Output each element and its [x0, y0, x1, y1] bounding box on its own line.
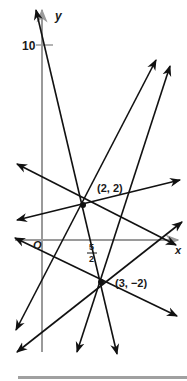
- x-tick-label-numerator: 5: [89, 242, 94, 252]
- point-label-3-neg2: (3, −2): [115, 277, 147, 289]
- y-axis-label: y: [54, 9, 63, 23]
- point-3-neg2: [98, 279, 104, 285]
- x-axis-label: x: [174, 244, 182, 256]
- point-2-2: [80, 202, 86, 208]
- line-through-3-neg2-a: [77, 66, 170, 352]
- origin-label: O: [33, 239, 42, 251]
- line-through-2-2-a: [16, 60, 156, 330]
- point-label-2-2: (2, 2): [97, 182, 123, 194]
- coordinate-plane-diagram: y x 10 O 5 2 (2, 2) (3, −2): [0, 0, 187, 381]
- y-tick-label-10: 10: [22, 39, 36, 53]
- footer-rule: [18, 376, 187, 379]
- x-tick-label-denominator: 2: [89, 254, 94, 264]
